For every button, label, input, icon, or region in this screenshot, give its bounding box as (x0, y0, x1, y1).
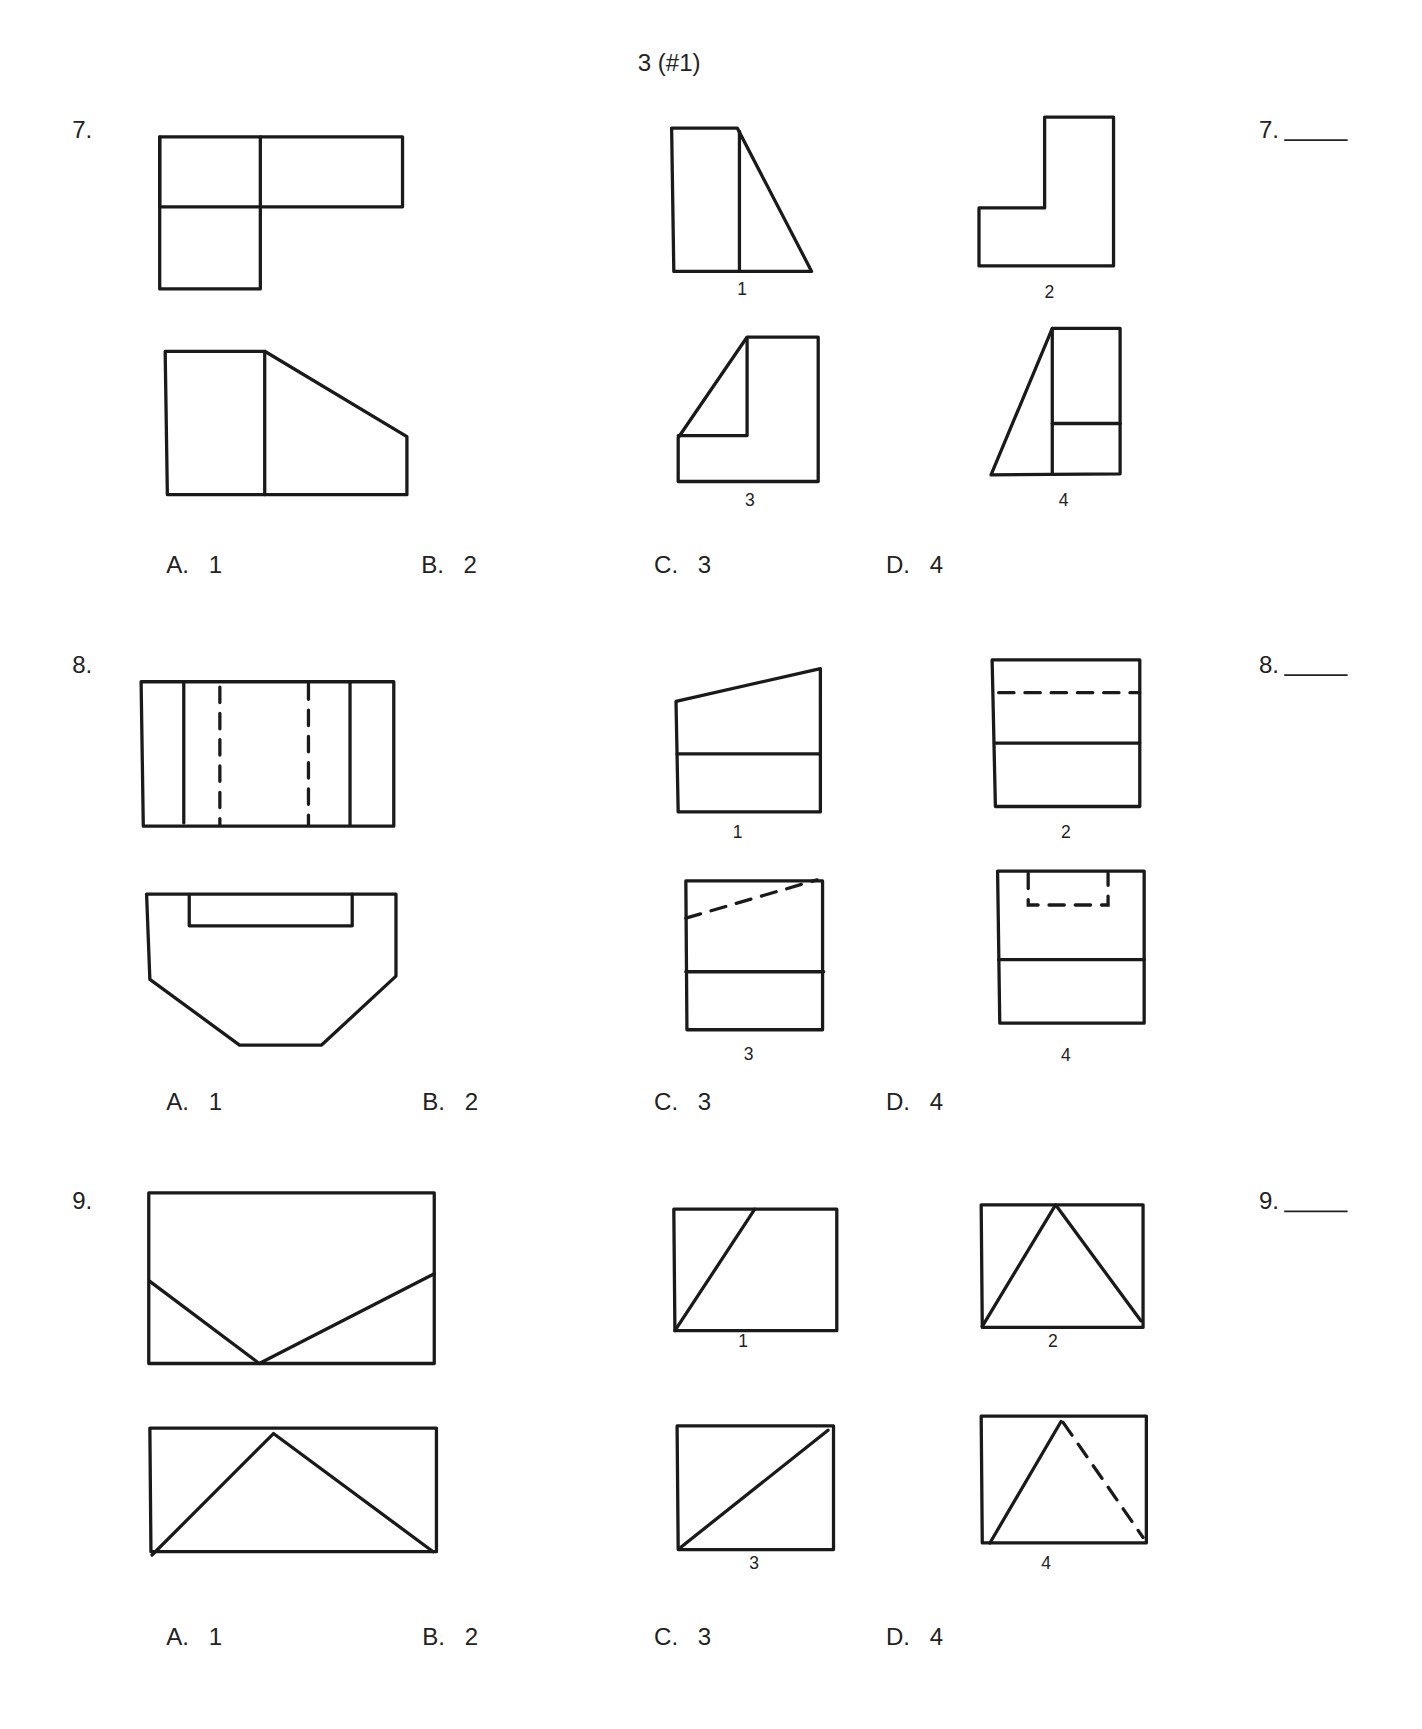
answer-blank-7[interactable]: 7. (1259, 116, 1348, 143)
choice-figure-1: 1 (676, 669, 820, 843)
figure-label: 1 (737, 279, 747, 299)
option-c[interactable]: C.3 (654, 1088, 711, 1115)
choice-figure-3: 3 (678, 337, 818, 510)
option-b[interactable]: B.2 (422, 1623, 478, 1650)
option-d[interactable]: D.4 (886, 1088, 943, 1115)
figure-label: 4 (1041, 1553, 1051, 1573)
option-c[interactable]: C.3 (654, 551, 711, 578)
question-7: 7. 1 2 3 (72, 116, 1347, 579)
given-view-front (150, 1428, 437, 1555)
figure-label: 2 (1061, 822, 1071, 842)
answer-options: A.1 B.2 C.3 D.4 (166, 1623, 943, 1650)
given-view-top (149, 1193, 434, 1364)
answer-label: 9. (1259, 1187, 1279, 1214)
choice-figure-3: 3 (677, 1426, 833, 1573)
given-view-top (160, 137, 403, 289)
answer-options: A.1 B.2 C.3 D.4 (166, 1088, 943, 1115)
answer-label: 8. (1259, 651, 1279, 678)
worksheet-page: 3 (#1) 7. 1 2 3 (0, 0, 1422, 1729)
figure-label: 2 (1048, 1331, 1058, 1351)
figure-label: 1 (738, 1331, 748, 1351)
answer-options: A.1 B.2 C.3 D.4 (166, 551, 943, 578)
choice-figure-4: 4 (998, 871, 1145, 1065)
choice-figure-2: 2 (981, 1205, 1143, 1351)
option-b[interactable]: B.2 (422, 1088, 478, 1115)
figure-label: 3 (744, 1044, 754, 1064)
question-number: 8. (72, 651, 92, 678)
figure-label: 4 (1061, 1045, 1071, 1065)
answer-blank-9[interactable]: 9. (1259, 1187, 1348, 1214)
given-view-top (141, 682, 394, 826)
option-d[interactable]: D.4 (886, 1623, 943, 1650)
figure-label: 3 (749, 1553, 759, 1573)
answer-label: 7. (1259, 116, 1279, 143)
given-view-front (165, 351, 407, 494)
choice-figure-4: 4 (981, 1416, 1146, 1573)
figure-label: 1 (733, 822, 743, 842)
figure-label: 2 (1045, 282, 1055, 302)
page-header: 3 (#1) (638, 49, 701, 76)
question-8: 8. 1 2 (72, 651, 1347, 1115)
question-number: 7. (72, 116, 92, 143)
question-9: 9. 1 2 3 (72, 1187, 1347, 1650)
option-c[interactable]: C.3 (654, 1623, 711, 1650)
choice-figure-1: 1 (672, 128, 812, 299)
choice-figure-3: 3 (686, 880, 824, 1065)
question-number: 9. (72, 1187, 92, 1214)
option-a[interactable]: A.1 (166, 551, 222, 578)
figure-label: 4 (1059, 490, 1069, 510)
option-d[interactable]: D.4 (886, 551, 943, 578)
choice-figure-2: 2 (979, 117, 1114, 302)
option-a[interactable]: A.1 (166, 1088, 222, 1115)
answer-blank-8[interactable]: 8. (1259, 651, 1348, 678)
choice-figure-4: 4 (991, 328, 1120, 509)
option-b[interactable]: B.2 (421, 551, 477, 578)
given-view-front (147, 894, 396, 1045)
choice-figure-2: 2 (992, 660, 1140, 842)
figure-label: 3 (745, 490, 755, 510)
option-a[interactable]: A.1 (166, 1623, 222, 1650)
choice-figure-1: 1 (674, 1209, 837, 1351)
